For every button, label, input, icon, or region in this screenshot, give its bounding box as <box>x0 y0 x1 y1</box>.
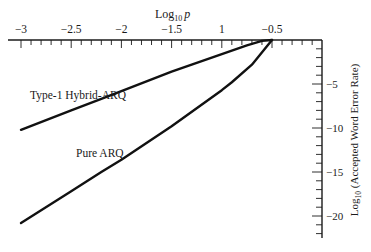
pure-arq-line <box>21 40 272 223</box>
y-tick-label: −15 <box>326 166 344 178</box>
y-tick-label: −10 <box>326 122 344 134</box>
x-tick-label: −2 <box>115 23 127 35</box>
series-lines <box>21 40 272 223</box>
x-tick-label: −3 <box>15 23 27 35</box>
x-axis <box>8 40 322 48</box>
x-axis-title-main: Log <box>155 7 174 21</box>
x-tick-label: −2.5 <box>61 23 82 35</box>
x-axis-title: Log10p <box>155 7 190 23</box>
type1-hybrid-arq-label: Type-1 Hybrid-ARQ <box>30 89 127 102</box>
y-tick-label: −20 <box>326 210 344 222</box>
type1-hybrid-arq-line <box>21 40 272 130</box>
y-tick-labels: −5−10−15−20 <box>326 78 344 222</box>
svg-text:Log10p: Log10p <box>155 7 190 23</box>
chart: Log10p −3−2.5−2−1.51−0.5 −5−10−15−20 Log… <box>0 0 371 252</box>
curve-labels: Type-1 Hybrid-ARQPure ARQ <box>30 89 127 159</box>
x-tick-label: −0.5 <box>262 23 283 35</box>
x-tick-labels: −3−2.5−2−1.51−0.5 <box>15 23 283 35</box>
x-axis-title-var: p <box>183 7 190 21</box>
x-tick-label: 1 <box>219 23 225 35</box>
x-axis-title-sub: 10 <box>174 14 182 23</box>
y-axis-title-post: (Accepted Word Error Rate) <box>348 63 361 191</box>
svg-text:Log10 (Accepted Word Error Rat: Log10 (Accepted Word Error Rate) <box>348 63 363 216</box>
y-tick-label: −5 <box>326 78 338 90</box>
y-axis-title-pre: Log <box>348 198 360 216</box>
y-axis-title: Log10 (Accepted Word Error Rate) <box>348 63 363 216</box>
pure-arq-label: Pure ARQ <box>76 147 124 159</box>
x-tick-label: −1.5 <box>161 23 182 35</box>
y-axis <box>312 40 322 238</box>
